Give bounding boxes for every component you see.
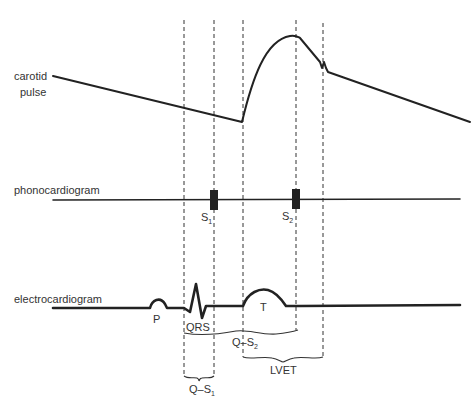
q-s2-label: Q–S2 <box>232 336 258 350</box>
phonocardiogram-label: phonocardiogram <box>14 184 100 196</box>
p-wave-label: P <box>153 313 160 325</box>
s1-sound-marker <box>210 190 218 210</box>
q-s1-brace <box>184 376 214 381</box>
q-s1-label: Q–S1 <box>189 383 215 397</box>
lvet-label: LVET <box>270 364 297 376</box>
electrocardiogram-trace <box>53 284 460 318</box>
t-wave-label: T <box>260 301 267 313</box>
electrocardiogram-label: electrocardiogram <box>14 293 102 305</box>
carotid-pulse-trace <box>53 36 470 122</box>
s1-label: S1 <box>201 211 212 225</box>
s2-label: S2 <box>282 210 293 224</box>
s2-sound-marker <box>292 189 300 209</box>
lvet-brace <box>243 357 323 362</box>
phonocardiogram-trace <box>53 199 460 200</box>
cardiac-timing-diagram: carotid pulse phonocardiogram S1 S2 elec… <box>0 0 472 405</box>
carotid-label: carotid <box>14 70 47 82</box>
pulse-label: pulse <box>20 86 46 98</box>
qrs-label: QRS <box>186 321 210 333</box>
